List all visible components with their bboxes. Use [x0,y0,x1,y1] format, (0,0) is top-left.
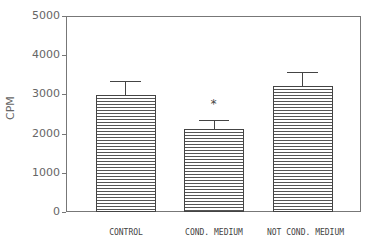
x-label-cond-medium: COND. MEDIUM [174,228,254,237]
error-bar-control [125,81,126,95]
y-tick-1000: 1000 [0,167,60,179]
x-label-control: CONTROL [96,228,156,237]
error-bar-not-cond-medium [302,72,303,86]
bar-not-cond-medium [273,86,333,212]
tick-mark [62,212,66,213]
x-label-not-cond-medium: NOT COND. MEDIUM [253,228,358,237]
error-bar-cond-medium [214,120,215,129]
bar-cond-medium [184,129,244,212]
y-tick-3000: 3000 [0,88,60,100]
tick-mark [62,173,66,174]
error-cap-control [110,81,141,82]
y-tick-4000: 4000 [0,49,60,61]
y-tick-5000: 5000 [0,10,60,22]
tick-mark [62,94,66,95]
significance-marker: * [210,97,217,111]
tick-mark [62,134,66,135]
bar-control [96,95,156,212]
tick-mark [62,16,66,17]
error-cap-not-cond-medium [287,72,318,73]
y-tick-0: 0 [0,206,60,218]
error-cap-cond-medium [199,120,229,121]
y-tick-2000: 2000 [0,128,60,140]
tick-mark [62,55,66,56]
